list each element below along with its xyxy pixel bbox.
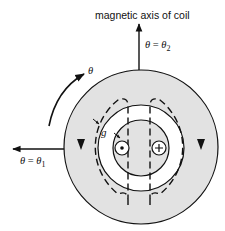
theta1-label: θ = θ1 — [20, 155, 46, 169]
diagram-title: magnetic axis of coil — [95, 9, 190, 21]
conductor-cross — [152, 141, 166, 155]
theta-direction-label: θ — [88, 65, 93, 76]
gap-label: g — [101, 126, 107, 138]
dot-icon — [120, 146, 124, 150]
conductor-dot — [115, 141, 129, 155]
coil-diagram: magnetic axis of coil θ = θ2 θ = θ1 θ g — [0, 0, 225, 231]
theta2-label: θ = θ2 — [145, 39, 171, 53]
